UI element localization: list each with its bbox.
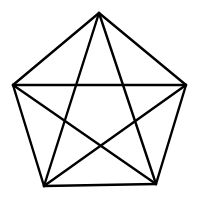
k5-graph-diagram [0, 0, 201, 200]
edge-bottom-left-left [13, 85, 44, 186]
edge-top-bottom-left [44, 13, 99, 186]
edge-bottom-right-bottom-left [44, 184, 156, 186]
edge-right-bottom-left [44, 85, 186, 186]
edge-left-top [13, 13, 99, 85]
edge-left-bottom-right [13, 85, 156, 184]
edge-right-bottom-right [156, 85, 186, 184]
edge-top-bottom-right [99, 13, 156, 184]
